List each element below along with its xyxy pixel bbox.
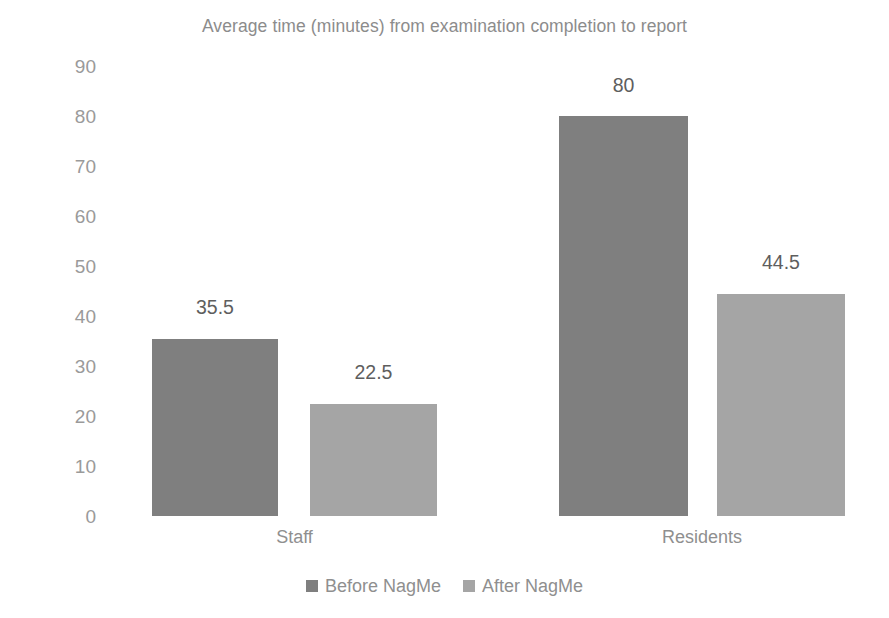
legend-item-label: After NagMe [482,576,583,596]
y-tick-label: 60 [38,207,96,226]
y-tick-label: 10 [38,457,96,476]
x-category-label-staff: Staff [152,527,437,547]
y-tick-label: 40 [38,307,96,326]
y-tick-label: 20 [38,407,96,426]
y-tick-label: 50 [38,257,96,276]
y-axis: 90 80 70 60 50 40 30 20 10 0 [38,0,96,618]
bar-staff-before[interactable] [152,339,278,517]
legend-swatch-icon [463,580,475,592]
legend-item-label: Before NagMe [325,576,441,596]
bar-value-label-residents-before: 80 [559,75,688,95]
bar-value-label-staff-before: 35.5 [152,297,278,317]
y-tick-label: 0 [38,507,96,526]
bar-staff-after[interactable] [310,404,437,517]
legend-item-before-nagme[interactable]: Before NagMe [306,576,441,596]
plot-area: 90 80 70 60 50 40 30 20 10 0 35.5 22.5 8… [0,0,889,618]
bar-residents-before[interactable] [559,116,688,516]
bar-value-label-residents-after: 44.5 [717,252,845,272]
chart-legend: Before NagMe After NagMe [0,576,889,596]
y-tick-label: 70 [38,157,96,176]
y-tick-label: 80 [38,107,96,126]
x-category-label-residents: Residents [559,527,845,547]
y-tick-label: 90 [38,57,96,76]
legend-item-after-nagme[interactable]: After NagMe [463,576,583,596]
legend-swatch-icon [306,580,318,592]
bar-chart: Average time (minutes) from examination … [0,0,889,618]
bar-residents-after[interactable] [717,294,845,517]
bar-value-label-staff-after: 22.5 [310,362,437,382]
y-tick-label: 30 [38,357,96,376]
